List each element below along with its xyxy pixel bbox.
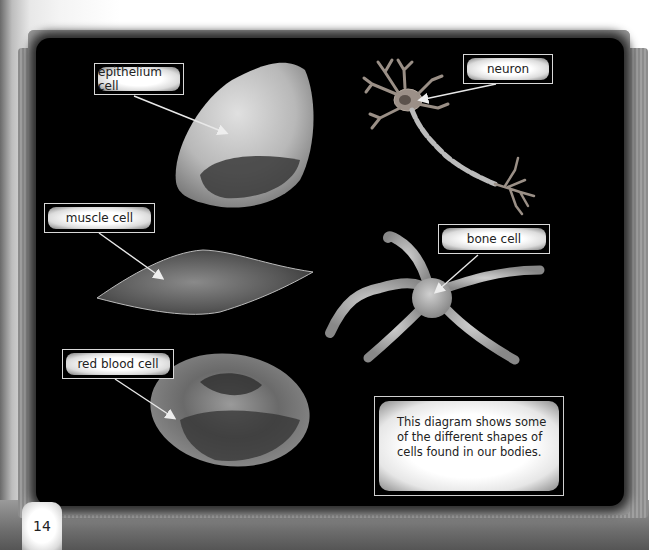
muscle-cell-shape xyxy=(97,250,313,314)
epithelium-cell-label: epithelium cell xyxy=(94,63,184,95)
bone-cell-shape xyxy=(330,236,540,360)
neuron-label: neuron xyxy=(463,54,553,84)
red-blood-cell-label: red blood cell xyxy=(62,349,174,379)
caption-box: This diagram shows some of the different… xyxy=(374,396,564,496)
muscle-cell-label: muscle cell xyxy=(44,203,155,233)
bone-cell-label: bone cell xyxy=(438,224,550,254)
epithelium-cell-shape xyxy=(176,63,314,208)
page-number: 14 xyxy=(22,502,62,550)
caption-text: This diagram shows some of the different… xyxy=(379,401,559,491)
